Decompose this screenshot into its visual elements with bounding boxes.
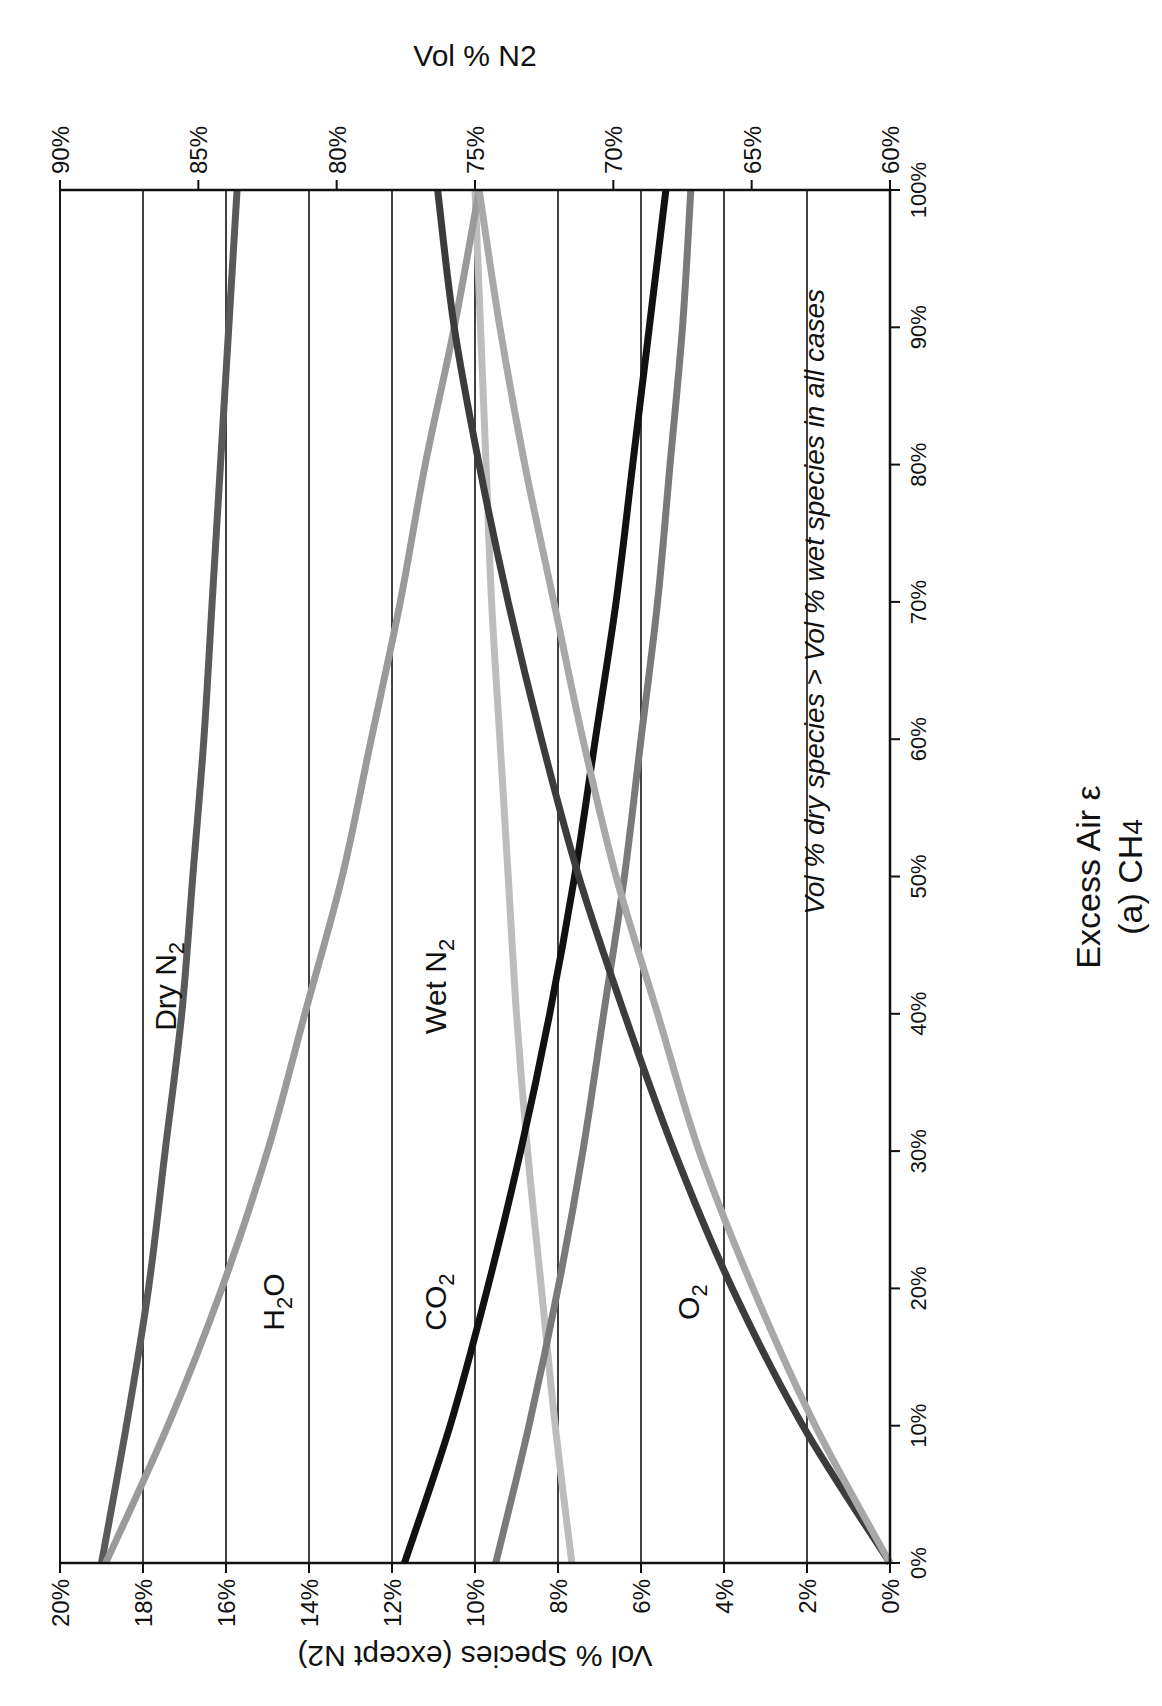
series-line-dry-n2 [102, 190, 238, 1563]
y-tick-label: 6% [628, 1579, 655, 1614]
x-tick-label: 0% [906, 1547, 931, 1579]
series-label: Wet N2 [419, 939, 459, 1034]
series-label: O2 [672, 1284, 712, 1320]
chart-stage: 0%2%4%6%8%10%12%14%16%18%20%0%10%20%30%4… [0, 0, 1162, 1706]
y2-tick-label: 65% [739, 126, 766, 174]
y-tick-label: 4% [711, 1579, 738, 1614]
y2-tick-label: 90% [47, 126, 74, 174]
y-tick-label: 16% [213, 1579, 240, 1627]
series-line-h2o-wet- [106, 190, 480, 1563]
y2-tick-label: 70% [600, 126, 627, 174]
x-tick-label: 40% [906, 992, 931, 1036]
y-tick-label: 0% [877, 1579, 904, 1614]
series-label: CO2 [419, 1274, 459, 1331]
series-labels: Dry N2H2OCO2Wet N2O2 [149, 939, 712, 1331]
x-tick-label: 70% [906, 580, 931, 624]
x-tick-label: 60% [906, 717, 931, 761]
y2-tick-label: 75% [462, 126, 489, 174]
chart-caption: (a) CH4 [1111, 819, 1149, 935]
series-label: H2O [257, 1273, 297, 1330]
y-axis-title: Vol % Species (except N2) [297, 1640, 652, 1673]
x-tick-label: 80% [906, 443, 931, 487]
y2-tick-label: 80% [324, 126, 351, 174]
y-tick-label: 14% [296, 1579, 323, 1627]
y-tick-label: 10% [462, 1579, 489, 1627]
species-vs-excess-air-chart: 0%2%4%6%8%10%12%14%16%18%20%0%10%20%30%4… [0, 0, 1162, 1706]
annotation-text: Vol % dry species > Vol % wet species in… [799, 289, 830, 915]
x-tick-label: 90% [906, 305, 931, 349]
x-tick-label: 10% [906, 1404, 931, 1448]
x-axis-title: Excess Air ε [1069, 785, 1107, 968]
series-lines [102, 190, 891, 1563]
x-tick-label: 20% [906, 1266, 931, 1310]
y2-tick-label: 85% [185, 126, 212, 174]
x-tick-label: 30% [906, 1129, 931, 1173]
y2-tick-label: 60% [877, 126, 904, 174]
x-tick-label: 50% [906, 854, 931, 898]
x-tick-label: 100% [906, 162, 931, 218]
y-tick-label: 2% [794, 1579, 821, 1614]
y-tick-label: 12% [379, 1579, 406, 1627]
y-tick-label: 20% [47, 1579, 74, 1627]
y-tick-label: 18% [130, 1579, 157, 1627]
y-tick-label: 8% [545, 1579, 572, 1614]
y2-axis-title: Vol % N2 [413, 39, 536, 72]
series-line-co2-wet- [496, 190, 691, 1563]
